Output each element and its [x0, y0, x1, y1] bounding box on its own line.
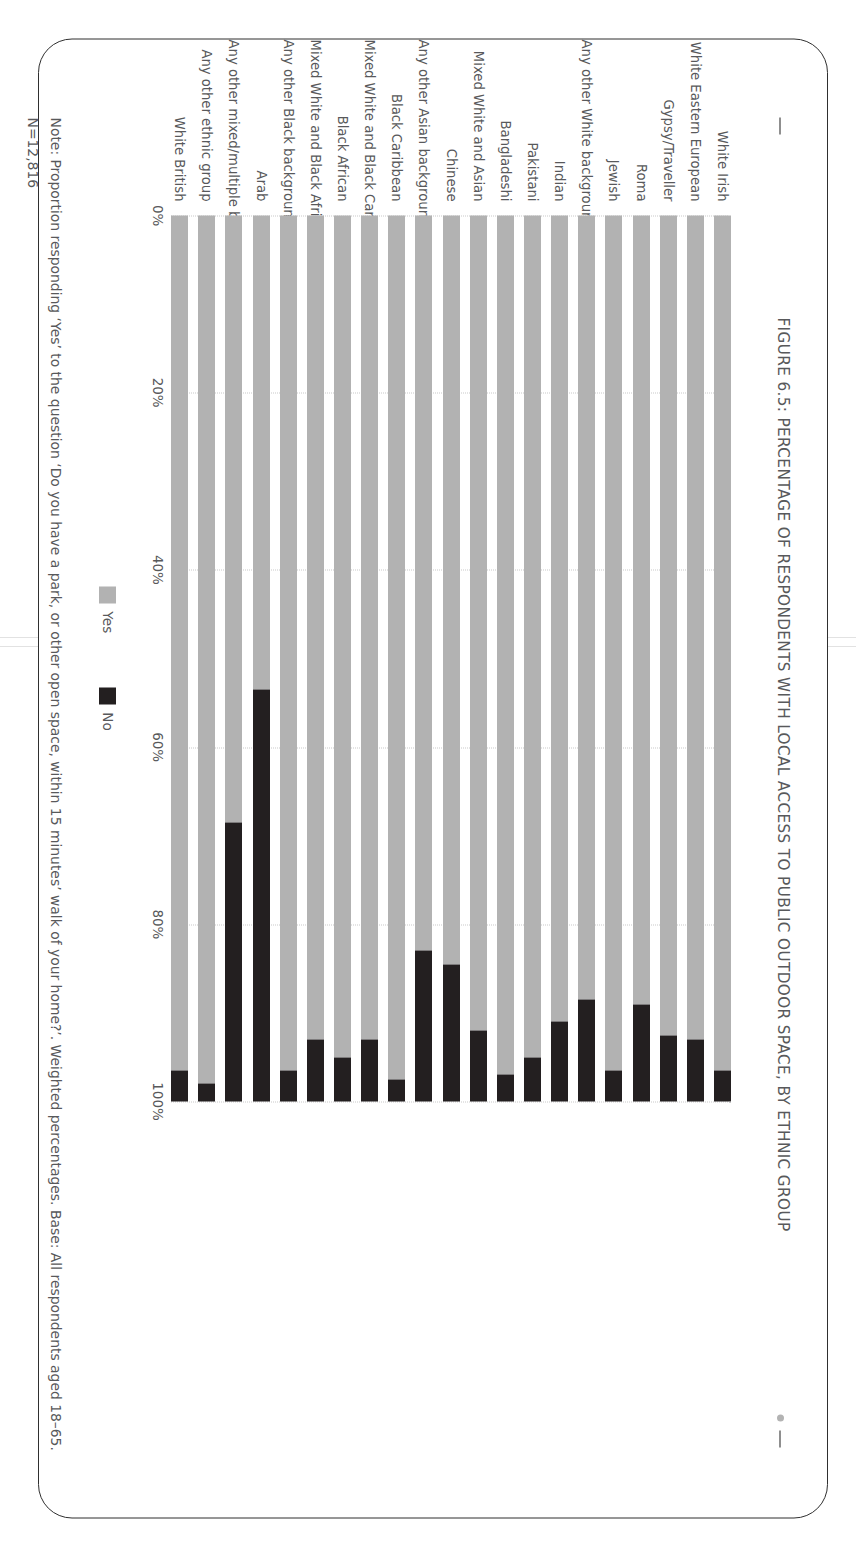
bar-segment-yes: [551, 215, 568, 1021]
category-label: White Eastern European: [687, 39, 704, 209]
category-label: Gypsy/Traveller: [660, 39, 677, 209]
axis-tick-label: 60%: [150, 732, 165, 762]
category-label: Black African: [334, 39, 351, 209]
bar-segment-no: [280, 1070, 297, 1101]
bar-segment-no: [415, 950, 432, 1101]
category-label: Any other ethnic group: [198, 39, 215, 209]
bar-segment-yes: [660, 215, 677, 1035]
bar-row: [253, 215, 270, 1101]
bar-segment-yes: [361, 215, 378, 1039]
bar-segment-no: [714, 1070, 731, 1101]
category-label: Jewish: [605, 39, 622, 209]
bar-segment-yes: [334, 215, 351, 1057]
bar-segment-yes: [253, 215, 270, 689]
bar-segment-yes: [280, 215, 297, 1070]
bar-segment-yes: [388, 215, 405, 1079]
bar-segment-no: [443, 964, 460, 1101]
legend-swatch-yes: [100, 586, 117, 603]
legend-swatch-no: [100, 687, 117, 704]
bar-segment-yes: [171, 215, 188, 1070]
chart-plot-area: [171, 215, 731, 1101]
axis-tick-label: 100%: [150, 1082, 165, 1120]
bar-segment-no: [578, 999, 595, 1101]
legend-item: No: [100, 687, 117, 731]
bar-segment-yes: [307, 215, 324, 1039]
bar-segment-no: [225, 822, 242, 1101]
bar-row: [714, 215, 731, 1101]
bar-segment-no: [198, 1083, 215, 1101]
figure-title-wrap: FIGURE 6.5: PERCENTAGE OF RESPONDENTS WI…: [771, 143, 793, 1405]
bar-row: [687, 215, 704, 1101]
bar-segment-no: [605, 1070, 622, 1101]
bar-row: [307, 215, 324, 1101]
figure-note: Note: Proportion responding ‘Yes’ to the…: [22, 117, 67, 1457]
bar-row: [225, 215, 242, 1101]
category-label: Bangladeshi: [497, 39, 514, 209]
bar-row: [605, 215, 622, 1101]
bar-segment-no: [470, 1030, 487, 1101]
bar-segment-no: [253, 689, 270, 1101]
bullet-dot-icon: [777, 1414, 784, 1421]
bar-segment-no: [660, 1035, 677, 1101]
category-label: Arab: [253, 39, 270, 209]
bar-segment-yes: [225, 215, 242, 822]
category-label: Chinese: [443, 39, 460, 209]
bar-row: [443, 215, 460, 1101]
bar-row: [361, 215, 378, 1101]
bar-segment-yes: [633, 215, 650, 1004]
category-axis-labels: White IrishWhite Eastern EuropeanGypsy/T…: [171, 39, 731, 209]
figure-header: FIGURE 6.5: PERCENTAGE OF RESPONDENTS WI…: [771, 117, 793, 1447]
bar-segment-yes: [605, 215, 622, 1070]
legend-item: Yes: [100, 586, 117, 633]
bar-segment-no: [633, 1004, 650, 1101]
bar-segment-yes: [578, 215, 595, 999]
bar-segment-no: [171, 1070, 188, 1101]
chart-legend: YesNo: [95, 215, 121, 1101]
bar-segment-no: [388, 1079, 405, 1101]
category-label: White British: [171, 39, 188, 209]
bar-segment-yes: [714, 215, 731, 1070]
category-label: Roma: [633, 39, 650, 209]
bar-row: [198, 215, 215, 1101]
bar-segment-yes: [687, 215, 704, 1039]
value-axis-ticks: 0%20%40%60%80%100%: [141, 215, 165, 1101]
bar-segment-yes: [415, 215, 432, 950]
bar-row: [280, 215, 297, 1101]
category-label: Any other White background: [578, 39, 595, 209]
bar-series-group: [171, 215, 731, 1101]
trailing-dash-icon: [779, 1430, 781, 1447]
legend-label: No: [100, 712, 116, 731]
page-title: FIGURE 6.5: PERCENTAGE OF RESPONDENTS WI…: [771, 147, 793, 1401]
category-label: Pakistani: [524, 39, 541, 209]
category-label: Any other Black background: [280, 39, 297, 209]
bar-row: [415, 215, 432, 1101]
bar-row: [578, 215, 595, 1101]
bar-row: [388, 215, 405, 1101]
category-label: Mixed White and Asian: [470, 39, 487, 209]
bar-row: [171, 215, 188, 1101]
category-label: Any other mixed/multiple background: [225, 39, 242, 209]
category-label: Any other Asian background: [415, 39, 432, 209]
bar-segment-yes: [470, 215, 487, 1030]
bar-segment-yes: [524, 215, 541, 1057]
bar-segment-no: [334, 1057, 351, 1101]
bar-segment-no: [551, 1021, 568, 1101]
category-label: Black Caribbean: [388, 39, 405, 209]
bar-row: [497, 215, 514, 1101]
bar-segment-no: [497, 1074, 514, 1101]
category-label: Mixed White and Black African: [307, 39, 324, 209]
bar-segment-yes: [198, 215, 215, 1083]
bar-row: [524, 215, 541, 1101]
category-label: Indian: [551, 39, 568, 209]
bar-segment-yes: [497, 215, 514, 1074]
axis-tick-label: 20%: [150, 377, 165, 407]
bar-row: [470, 215, 487, 1101]
axis-tick-label: 80%: [150, 909, 165, 939]
bar-row: [660, 215, 677, 1101]
bar-segment-no: [524, 1057, 541, 1101]
rotated-page: FIGURE 6.5: PERCENTAGE OF RESPONDENTS WI…: [0, 0, 856, 1563]
bar-row: [551, 215, 568, 1101]
axis-tick-label: 0%: [150, 204, 165, 225]
category-label: Mixed White and Black Caribbean: [361, 39, 378, 209]
bar-segment-yes: [443, 215, 460, 964]
